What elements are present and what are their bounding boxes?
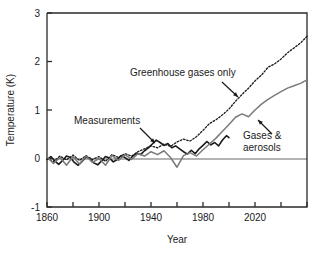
annotation-label-gases: Gases & [243,130,282,141]
y-tick-label: 1 [34,105,40,116]
annotation-label-measurements: Measurements [74,115,140,126]
x-tick-label: 2020 [244,212,267,223]
figure-container: -10123 18601900194019802020 Temperature … [0,0,322,255]
x-tick-label: 1980 [192,212,215,223]
y-axis-title: Temperature (K) [5,74,16,146]
y-tick-label: 0 [34,153,40,164]
y-tick-label: 2 [34,56,40,67]
annotation-label-gases-line2: aerosols [243,142,281,153]
climate-temperature-line-chart: -10123 18601900194019802020 Temperature … [0,0,322,255]
y-tick-label: -1 [31,202,40,213]
annotation-label-greenhouse-gases-only: Greenhouse gases only [130,67,236,78]
x-tick-label: 1900 [88,212,111,223]
x-tick-label: 1860 [36,212,59,223]
x-axis-title: Year [167,234,188,245]
y-tick-label: 3 [34,8,40,19]
x-tick-label: 1940 [140,212,163,223]
